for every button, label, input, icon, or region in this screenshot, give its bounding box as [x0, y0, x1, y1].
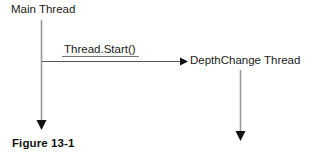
depthchange-thread-arrowhead — [236, 131, 246, 141]
figure-caption: Figure 13-1 — [12, 138, 74, 150]
sequence-diagram-canvas — [0, 0, 312, 158]
participant-label-depthchange-thread: DepthChange Thread — [190, 55, 300, 67]
participant-label-main-thread: Main Thread — [11, 4, 75, 16]
message-label-thread-start: Thread.Start() — [64, 44, 136, 56]
main-thread-arrowhead — [37, 120, 47, 130]
figure-container: Main Thread Thread.Start() DepthChange T… — [0, 0, 312, 158]
thread-start-arrowhead — [180, 58, 188, 66]
